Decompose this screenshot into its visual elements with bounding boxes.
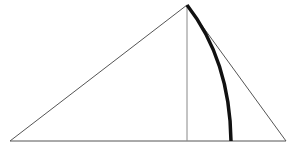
triangle-diagram: [0, 0, 291, 148]
thick-arc: [187, 5, 231, 141]
triangle-side-left: [10, 5, 187, 141]
